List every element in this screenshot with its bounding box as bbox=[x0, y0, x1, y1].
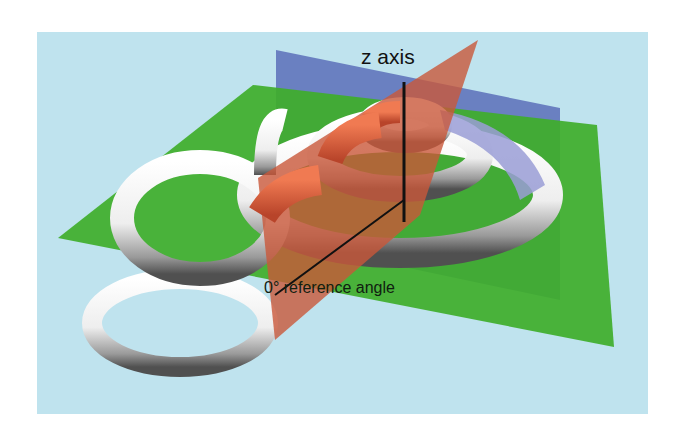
knot-diagram bbox=[0, 0, 676, 434]
z-axis-label: z axis bbox=[361, 45, 415, 69]
reference-angle-label: 0° reference angle bbox=[264, 279, 395, 297]
